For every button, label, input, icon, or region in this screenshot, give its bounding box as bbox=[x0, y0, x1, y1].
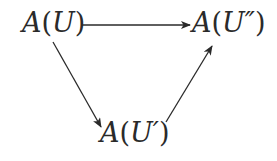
arrows-layer bbox=[0, 0, 277, 161]
arrow-right-diagonal-up bbox=[166, 46, 212, 122]
commutative-diagram: A(U) A(U″) A(U′) bbox=[0, 0, 277, 161]
arrow-left-diagonal-down bbox=[53, 42, 101, 127]
